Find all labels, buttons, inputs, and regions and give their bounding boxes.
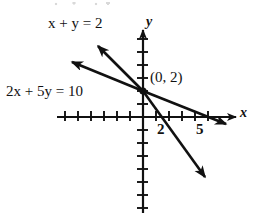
coordinate-plane-graphic: [0, 0, 254, 216]
equation-label-line2: 2x + 5y = 10: [6, 84, 83, 99]
x-tick-label-5: 5: [196, 122, 204, 137]
x-tick-label-2: 2: [157, 122, 165, 137]
y-axis-label: y: [146, 15, 152, 29]
intersection-point-marker: [139, 87, 146, 94]
x-axis-label: x: [240, 106, 247, 120]
intersection-point-label: (0, 2): [150, 70, 183, 85]
line-2x-plus-5y-equals-10: [72, 62, 226, 124]
graph-figure: x + y = 2 2x + 5y = 10 y x 2 5 (0, 2): [0, 0, 254, 216]
equation-label-line1: x + y = 2: [48, 16, 102, 31]
line-x-plus-y-equals-2: [98, 46, 205, 177]
